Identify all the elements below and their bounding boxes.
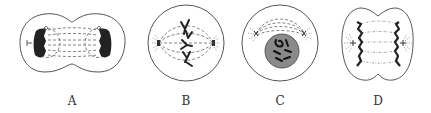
label-a: A xyxy=(67,94,77,108)
label-c: C xyxy=(275,94,284,108)
label-d: D xyxy=(373,94,383,108)
cell-a-pole-mark xyxy=(27,40,32,46)
cell-c-nucleus xyxy=(265,34,299,68)
cell-a-left-centriole xyxy=(44,26,47,29)
cell-c-left-aster xyxy=(248,28,258,41)
cell-a-left-envelope xyxy=(43,28,60,57)
cell-a-right-chromatin xyxy=(99,29,111,58)
cell-a-right-centriole xyxy=(97,26,100,29)
cell-d-right-chromosomes xyxy=(395,22,400,66)
cell-d xyxy=(342,8,413,80)
cell-c-right-aster xyxy=(302,28,312,41)
cell-c xyxy=(242,5,318,81)
cell-a xyxy=(20,14,125,72)
cell-a-midzone-spindle xyxy=(48,28,97,57)
cell-d-left-chromosomes xyxy=(357,22,362,66)
cell-c-forming-spindle xyxy=(256,19,305,35)
cell-a-right-envelope xyxy=(85,28,102,57)
cell-b-right-aster xyxy=(212,35,220,51)
cell-d-right-aster xyxy=(400,34,412,52)
label-b: B xyxy=(182,94,191,108)
cell-a-left-chromatin xyxy=(34,29,46,58)
mitosis-figure: A B C D xyxy=(0,0,431,113)
cell-b xyxy=(148,5,224,81)
cell-b-left-aster xyxy=(152,35,160,51)
cell-d-spindle xyxy=(361,21,397,63)
cell-d-left-aster xyxy=(344,34,356,52)
